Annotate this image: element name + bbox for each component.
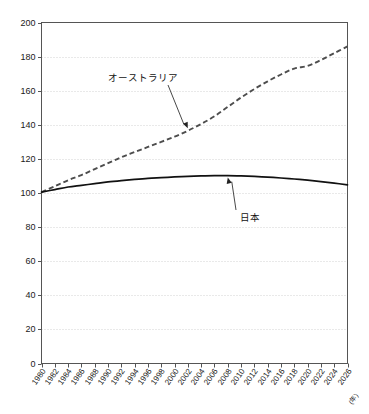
series-line-japan <box>42 176 348 193</box>
annotation-label-japan: 日本 <box>240 212 260 223</box>
gridlines-group <box>42 58 348 330</box>
x-tick-label-1986: 1986 <box>69 367 87 387</box>
y-tick-label-140: 140 <box>20 120 35 130</box>
y-tick-label-60: 60 <box>25 256 35 266</box>
y-tick-label-80: 80 <box>25 222 35 232</box>
x-tick-label-2012: 2012 <box>242 367 260 387</box>
x-axis-labels-group: 1980198219841986198819901992199419961998… <box>30 367 360 406</box>
population-index-line-chart: オーストラリア日本 198019821984198619881990199219… <box>0 0 369 414</box>
y-tick-label-40: 40 <box>25 290 35 300</box>
x-tick-label-1998: 1998 <box>149 367 167 387</box>
x-tick-label-2006: 2006 <box>202 367 220 387</box>
x-tick-label-1992: 1992 <box>109 367 127 387</box>
x-tick-label-2018: 2018 <box>282 367 300 387</box>
x-axis-unit-label: (年) <box>346 391 360 405</box>
chart-canvas: オーストラリア日本 198019821984198619881990199219… <box>0 0 369 414</box>
annotation-label-australia: オーストラリア <box>108 72 178 83</box>
y-tick-label-0: 0 <box>30 359 35 369</box>
series-line-australia <box>42 46 348 192</box>
annotation-leader-japan <box>232 182 236 210</box>
y-tick-label-20: 20 <box>25 324 35 334</box>
y-axis-ticks-group <box>38 24 42 365</box>
y-tick-label-160: 160 <box>20 86 35 96</box>
y-axis-labels-group: 020406080100120140160180200 <box>20 18 35 369</box>
x-tick-label-2024: 2024 <box>322 367 340 387</box>
y-tick-label-120: 120 <box>20 154 35 164</box>
x-tick-label-2026: 2026 <box>336 367 354 387</box>
y-tick-label-200: 200 <box>20 18 35 28</box>
annotation-arrowhead-japan <box>227 178 232 185</box>
x-axis-ticks-group <box>43 364 349 368</box>
annotations-group: オーストラリア日本 <box>108 72 260 223</box>
y-tick-label-180: 180 <box>20 52 35 62</box>
annotation-leader-australia <box>168 85 184 124</box>
y-tick-label-100: 100 <box>20 188 35 198</box>
annotation-arrowhead-australia <box>183 122 188 129</box>
